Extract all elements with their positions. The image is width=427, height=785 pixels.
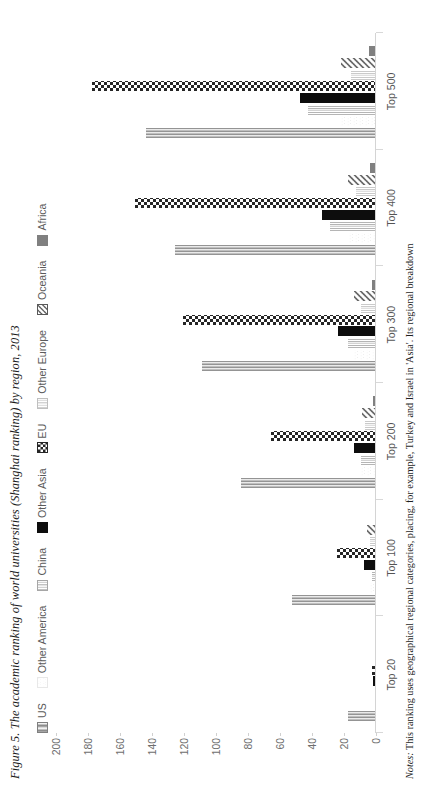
- category-axis-label: Top 500: [385, 72, 397, 110]
- bar-eu-top-20: [372, 665, 375, 675]
- legend-item-oceania: Oceania: [36, 261, 48, 315]
- value-axis-tick: [312, 733, 313, 736]
- bar-us-top-20: [348, 711, 375, 721]
- bar-oceania-top-100: [367, 525, 375, 535]
- value-axis-label: 200: [51, 738, 62, 755]
- bar-oceania-top-200: [362, 408, 375, 418]
- bar-us-top-500: [146, 128, 375, 138]
- chart-legend: USOther AmericaChinaOther AsiaEUOther Eu…: [34, 33, 50, 733]
- chart-plot-area: 020406080100120140160180200Top 20Top 100…: [56, 33, 376, 733]
- bar-china-top-100: [372, 571, 375, 581]
- legend-swatch-icon: [37, 722, 48, 733]
- legend-swatch-icon: [37, 522, 48, 533]
- bar-other-america-top-200: [361, 466, 375, 476]
- legend-label: EU: [36, 424, 48, 439]
- bar-other-america-top-300: [354, 350, 375, 360]
- bar-us-top-200: [241, 478, 375, 488]
- bar-other-asia-top-20: [373, 676, 375, 686]
- category-separator: [376, 32, 383, 33]
- figure-stage: Figure 5. The academic ranking of world …: [0, 0, 427, 785]
- category-axis-label: Top 20: [385, 659, 397, 691]
- value-axis-tick: [184, 733, 185, 736]
- figure-note-prefix: Notes:: [404, 752, 415, 779]
- bar-other-asia-top-200: [354, 443, 375, 453]
- bar-china-top-500: [308, 105, 375, 115]
- bar-other-america-top-100: [370, 583, 375, 593]
- bar-africa-top-400: [370, 163, 375, 173]
- bar-other-america-top-500: [341, 116, 375, 126]
- category-separator: [376, 499, 383, 500]
- bar-us-top-300: [202, 361, 375, 371]
- legend-item-other-america: Other America: [36, 606, 48, 689]
- bar-other-asia-top-400: [322, 210, 375, 220]
- bar-other-asia-top-100: [364, 560, 375, 570]
- value-axis-label: 180: [83, 738, 94, 755]
- value-axis-label: 20: [339, 738, 350, 750]
- bar-other-asia-top-500: [300, 93, 375, 103]
- category-axis-label: Top 400: [385, 189, 397, 227]
- value-axis-label: 120: [179, 738, 190, 755]
- value-axis-tick: [376, 733, 377, 736]
- category-axis-label: Top 300: [385, 306, 397, 344]
- value-axis-label: 40: [307, 738, 318, 750]
- legend-swatch-icon: [37, 580, 48, 591]
- value-axis-tick: [280, 733, 281, 736]
- value-axis-label: 60: [275, 738, 286, 750]
- bar-africa-top-500: [369, 46, 375, 56]
- bar-oceania-top-400: [348, 175, 375, 185]
- legend-swatch-icon: [37, 304, 48, 315]
- value-axis-label: 140: [147, 738, 158, 755]
- value-axis-tick: [56, 733, 57, 736]
- bar-other-europe-top-300: [361, 303, 375, 313]
- bar-us-top-400: [175, 245, 375, 255]
- value-axis-label: 80: [243, 738, 254, 750]
- legend-item-eu: EU: [36, 424, 48, 454]
- bar-other-asia-top-300: [338, 326, 375, 336]
- bar-china-top-200: [361, 455, 375, 465]
- figure-note-text: This ranking uses geographical regional …: [404, 243, 415, 752]
- legend-swatch-icon: [37, 235, 48, 246]
- category-separator: [376, 615, 383, 616]
- bar-china-top-300: [348, 338, 375, 348]
- plot-inner: 020406080100120140160180200Top 20Top 100…: [56, 33, 376, 733]
- category-separator: [376, 149, 383, 150]
- bar-oceania-top-500: [341, 58, 375, 68]
- category-separator: [376, 382, 383, 383]
- value-axis-tick: [248, 733, 249, 736]
- legend-label: Other Asia: [36, 468, 48, 517]
- category-separator: [376, 732, 383, 733]
- value-axis-tick: [344, 733, 345, 736]
- legend-item-china: China: [36, 548, 48, 591]
- value-axis-tick: [152, 733, 153, 736]
- figure-title: Figure 5. The academic ranking of world …: [8, 9, 23, 779]
- value-axis-label: 0: [371, 738, 382, 744]
- bar-africa-top-300: [372, 280, 375, 290]
- value-axis-label: 160: [115, 738, 126, 755]
- bar-china-top-400: [330, 221, 375, 231]
- legend-label: US: [36, 703, 48, 718]
- bar-africa-top-200: [373, 396, 375, 406]
- bar-eu-top-200: [271, 431, 375, 441]
- bar-eu-top-400: [135, 198, 375, 208]
- value-axis-tick: [88, 733, 89, 736]
- legend-swatch-icon: [37, 442, 48, 453]
- bar-oceania-top-300: [354, 291, 375, 301]
- legend-swatch-icon: [37, 398, 48, 409]
- legend-item-other-europe: Other Europe: [36, 330, 48, 409]
- figure-note: Notes: This ranking uses geographical re…: [404, 4, 415, 779]
- legend-item-africa: Africa: [36, 204, 48, 246]
- bar-other-america-top-400: [349, 233, 375, 243]
- bar-other-europe-top-400: [356, 186, 375, 196]
- bar-other-europe-top-200: [365, 420, 375, 430]
- category-axis-label: Top 200: [385, 422, 397, 460]
- value-axis-label: 100: [211, 738, 222, 755]
- legend-item-us: US: [36, 703, 48, 733]
- legend-label: Africa: [36, 204, 48, 231]
- legend-label: Other America: [36, 606, 48, 674]
- value-axis-tick: [120, 733, 121, 736]
- legend-label: Oceania: [36, 261, 48, 300]
- category-axis-label: Top 100: [385, 539, 397, 577]
- bar-other-europe-top-100: [370, 536, 375, 546]
- legend-label: Other Europe: [36, 330, 48, 394]
- bar-eu-top-300: [183, 315, 375, 325]
